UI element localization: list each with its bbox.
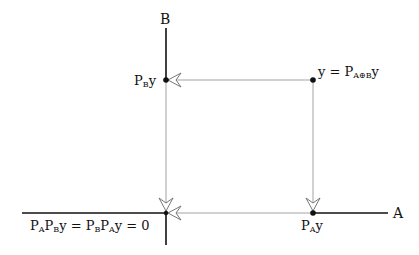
label-sub: A⊕B bbox=[353, 71, 371, 80]
label-pay: PAy bbox=[301, 219, 323, 234]
label-pby: PBy bbox=[134, 74, 156, 89]
label-y-equals-paob-y: y = PA⊕By bbox=[318, 65, 379, 80]
point-pay bbox=[310, 210, 316, 216]
point-origin bbox=[164, 211, 168, 215]
label-origin-papby-equals-pbpay-equals-zero: PAPBy = PBPAy = 0 bbox=[30, 219, 150, 234]
label-tail: y bbox=[149, 73, 156, 88]
label-part: P bbox=[45, 218, 54, 233]
label-part: P bbox=[100, 218, 109, 233]
label-tail: y bbox=[372, 64, 379, 79]
label-main: P bbox=[301, 218, 310, 233]
label-tail: y bbox=[316, 218, 323, 233]
axis-b-label: B bbox=[160, 12, 170, 26]
label-main: P bbox=[134, 73, 143, 88]
label-main: y = P bbox=[318, 64, 353, 79]
label-part: y = 0 bbox=[115, 218, 150, 233]
label-part: P bbox=[30, 218, 39, 233]
label-part: y = P bbox=[59, 218, 94, 233]
point-pby bbox=[163, 77, 169, 83]
projection-diagram bbox=[0, 0, 419, 255]
axis-a-label: A bbox=[393, 206, 403, 220]
point-y bbox=[310, 77, 316, 83]
